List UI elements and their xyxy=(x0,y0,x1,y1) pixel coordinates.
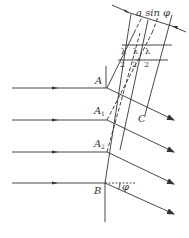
half-wave-den-1: 2 xyxy=(120,60,125,69)
label-phi: φ xyxy=(122,181,129,192)
diffracted-rays xyxy=(105,88,174,214)
label-A2-sub: 2 xyxy=(101,143,105,150)
label-A1: A xyxy=(93,105,101,116)
half-wave-1: λ xyxy=(121,47,126,56)
half-wave-2: λ xyxy=(133,47,138,56)
label-C: C xyxy=(138,113,146,124)
phi-arc xyxy=(119,183,121,190)
label-A1-sub: 1 xyxy=(101,110,105,117)
diffraction-diagram: a sin φ λ λ λ 2 2 2 A A 1 A 2 C B φ xyxy=(0,0,189,238)
label-width: a sin φ xyxy=(136,7,170,18)
half-wave-den-2: 2 xyxy=(132,60,137,69)
label-B: B xyxy=(93,185,101,196)
half-wave-zones xyxy=(105,14,172,183)
label-A2: A xyxy=(93,138,101,149)
incident-rays xyxy=(12,87,107,185)
label-A: A xyxy=(94,75,102,86)
half-wave-3: λ xyxy=(145,47,150,56)
half-wave-den-3: 2 xyxy=(144,60,149,69)
